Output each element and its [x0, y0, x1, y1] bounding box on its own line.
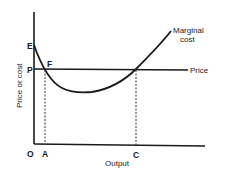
- label-a: A: [42, 149, 48, 159]
- marginal-cost-label-line1: Marginal: [173, 26, 204, 35]
- marginal-cost-curve: [34, 31, 171, 93]
- x-axis: [34, 144, 205, 146]
- price-line: [34, 69, 188, 70]
- marginal-cost-diagram: E P F O A C Output Price or cost Margina…: [0, 0, 226, 178]
- marginal-cost-label-line2: cost: [180, 35, 195, 44]
- label-e: E: [27, 41, 33, 51]
- label-c: C: [133, 150, 139, 160]
- price-label: Price: [190, 66, 209, 75]
- label-f: F: [47, 59, 52, 69]
- label-p: P: [27, 65, 33, 75]
- y-axis-label: Price or cost: [15, 63, 24, 108]
- label-origin: O: [27, 149, 34, 159]
- x-axis-label: Output: [105, 159, 130, 168]
